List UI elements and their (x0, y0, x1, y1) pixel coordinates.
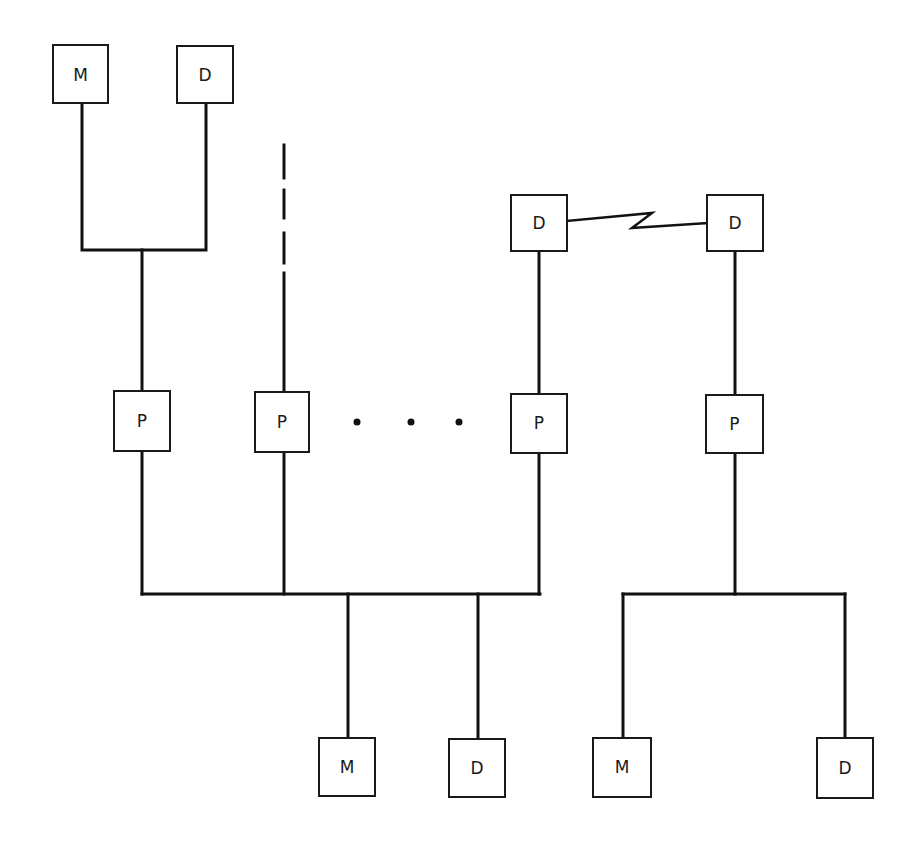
ellipsis-dot (354, 419, 361, 426)
node-label: D (198, 65, 211, 85)
node-label: D (728, 213, 741, 233)
node-bottom-m2: M (593, 738, 651, 797)
node-top-d: D (177, 46, 233, 103)
node-d-right: D (707, 195, 763, 251)
ellipsis (354, 419, 463, 426)
communication-link (567, 213, 707, 228)
node-label: M (615, 757, 630, 777)
ellipsis-dot (408, 419, 415, 426)
node-bottom-m1: M (319, 738, 375, 796)
node-p1: P (114, 391, 170, 451)
node-label: P (729, 414, 739, 434)
node-p2: P (255, 392, 309, 452)
node-bottom-d2: D (817, 738, 873, 798)
node-label: D (470, 758, 483, 778)
node-label: D (838, 758, 851, 778)
node-label: P (534, 413, 544, 433)
node-top-m: M (53, 45, 108, 103)
node-label: P (137, 411, 147, 431)
top-memory-device-link (82, 103, 206, 250)
node-bottom-d1: D (449, 739, 505, 797)
network-diagram: M D P P D D P P M D M D (0, 0, 921, 853)
node-label: D (532, 213, 545, 233)
node-p3: P (511, 394, 567, 453)
node-label: M (73, 65, 88, 85)
ellipsis-dot (456, 419, 463, 426)
node-label: P (277, 412, 287, 432)
node-label: M (340, 757, 355, 777)
node-d-left: D (511, 195, 567, 251)
node-p4: P (706, 395, 763, 453)
